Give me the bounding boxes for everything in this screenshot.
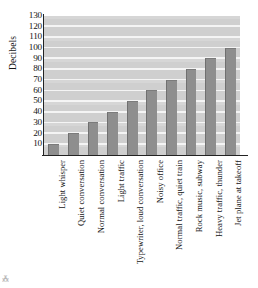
x-axis-label-slot: Rock music, subway (181, 158, 201, 286)
y-axis-tick-label: 50 (22, 96, 42, 105)
x-axis-line (42, 155, 248, 156)
x-axis-label-slot: Normal conversation (83, 158, 103, 286)
bar (48, 144, 59, 155)
y-axis-tick-label: 100 (22, 43, 42, 52)
y-axis-tick-label: 120 (22, 22, 42, 31)
x-axis-label-slot: Jet plane at takeoff (220, 158, 240, 286)
x-axis-label-slot: Normal traffic, quiet train (162, 158, 182, 286)
y-axis-line (43, 14, 44, 156)
bar (107, 112, 118, 155)
y-axis-tick-label: 80 (22, 64, 42, 73)
bar-series (44, 16, 240, 155)
y-axis-tick-label: 60 (22, 86, 42, 95)
bar (146, 90, 157, 154)
scan-artifact: ⁂ (2, 275, 9, 283)
bar (88, 122, 99, 154)
bar (68, 133, 79, 154)
bar (225, 48, 236, 155)
y-axis-tick-label: 90 (22, 54, 42, 63)
y-axis-tick-label: 110 (22, 32, 42, 41)
x-axis-label-slot: Quiet conversation (64, 158, 84, 286)
x-axis-category-label: Jet plane at takeoff (234, 160, 243, 226)
x-axis-label-slot: Noisy office (142, 158, 162, 286)
y-axis-tick-label: 20 (22, 129, 42, 138)
bar-chart-figure: Decibels 130120110100908070605040302010 … (0, 0, 258, 288)
x-axis-label-slot: Typewriter, loud conversation (122, 158, 142, 286)
x-axis-category-labels: Light whisperQuiet conversationNormal co… (44, 158, 240, 286)
plot-area (44, 16, 240, 155)
bar (127, 101, 138, 154)
y-axis-tick-label: 130 (22, 11, 42, 20)
x-axis-label-slot: Light whisper (44, 158, 64, 286)
bar (205, 58, 216, 154)
bar (186, 69, 197, 155)
y-axis-tick-label: 10 (22, 139, 42, 148)
y-axis-tick-labels: 130120110100908070605040302010 (22, 11, 42, 148)
bar (166, 80, 177, 155)
x-axis-label-slot: Light traffic (103, 158, 123, 286)
y-axis-tick-label: 40 (22, 107, 42, 116)
y-axis-tick-label: 30 (22, 118, 42, 127)
y-axis-tick-label: 70 (22, 75, 42, 84)
x-axis-label-slot: Heavy traffic, thunder (201, 158, 221, 286)
y-axis-title: Decibels (8, 20, 18, 86)
